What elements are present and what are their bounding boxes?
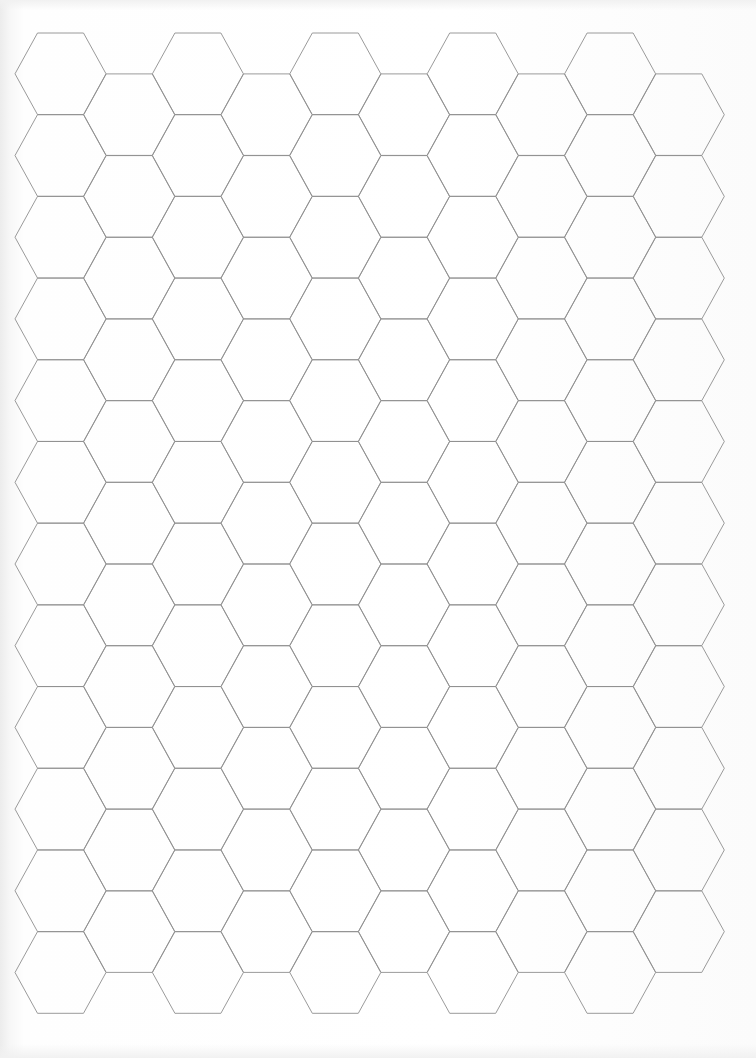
hex-cell — [152, 523, 243, 605]
hex-cell — [15, 115, 106, 197]
hex-cell — [84, 74, 175, 155]
hex-cell — [427, 768, 518, 850]
hex-cell — [290, 523, 381, 605]
hex-cell — [565, 523, 656, 605]
hex-cell — [427, 523, 518, 605]
hex-cell — [15, 768, 106, 850]
hex-cell — [565, 33, 656, 115]
hex-cell — [221, 891, 312, 973]
hex-cell — [84, 891, 175, 973]
hex-cell — [359, 482, 450, 564]
hexagon-grid — [0, 0, 756, 1058]
hex-cell — [84, 646, 175, 728]
hex-cell — [427, 196, 518, 278]
hex-cell — [290, 687, 381, 769]
hex-cell — [84, 564, 175, 646]
hex-cell — [633, 646, 724, 728]
hex-cell — [565, 605, 656, 687]
hex-cell — [290, 605, 381, 687]
hex-cell — [290, 850, 381, 932]
hex-cell — [290, 932, 381, 1014]
hex-cell — [496, 482, 587, 564]
hex-cell — [84, 237, 175, 319]
hex-cell — [565, 278, 656, 360]
hex-cell — [565, 932, 656, 1014]
hex-cell — [427, 932, 518, 1014]
hex-cell — [152, 442, 243, 524]
hex-cell — [84, 319, 175, 401]
hex-cell — [221, 646, 312, 728]
hex-cell — [427, 605, 518, 687]
hex-cell — [15, 278, 106, 360]
hex-cell — [290, 115, 381, 197]
hex-cell — [152, 360, 243, 442]
hex-cell — [84, 401, 175, 483]
hex-cell — [15, 523, 106, 605]
hex-cell — [290, 360, 381, 442]
hex-cell — [290, 768, 381, 850]
hex-cell — [221, 809, 312, 891]
hex-cell — [427, 687, 518, 769]
hex-cell — [496, 401, 587, 483]
hex-cell — [221, 728, 312, 810]
hex-cell — [633, 482, 724, 564]
hex-cell — [496, 646, 587, 728]
hex-cell — [496, 728, 587, 810]
hex-cell — [633, 728, 724, 810]
hex-cell — [15, 33, 106, 115]
hex-cell — [496, 74, 587, 155]
hex-cell — [221, 401, 312, 483]
hex-cell — [427, 360, 518, 442]
hex-cell — [427, 442, 518, 524]
hex-cell — [359, 237, 450, 319]
hex-cell — [221, 74, 312, 155]
hex-cell — [496, 809, 587, 891]
hex-cell — [565, 768, 656, 850]
hex-cell — [496, 156, 587, 238]
hex-cell — [152, 605, 243, 687]
hex-cell — [84, 728, 175, 810]
hex-cell — [15, 196, 106, 278]
hex-cell — [633, 401, 724, 483]
hex-cell — [290, 442, 381, 524]
hex-cell — [496, 564, 587, 646]
hex-cell — [221, 319, 312, 401]
hex-cell — [359, 319, 450, 401]
hex-cell — [496, 237, 587, 319]
hex-cell — [152, 115, 243, 197]
hex-cell — [633, 319, 724, 401]
hex-cell — [84, 482, 175, 564]
hex-cell — [496, 319, 587, 401]
hex-cell — [84, 156, 175, 238]
hex-cell — [359, 564, 450, 646]
hex-cell — [152, 768, 243, 850]
hex-cell — [15, 687, 106, 769]
hex-cell — [152, 196, 243, 278]
hex-cell — [290, 196, 381, 278]
hex-cell — [359, 156, 450, 238]
hex-cell — [633, 564, 724, 646]
hex-cell — [633, 74, 724, 155]
hex-cell — [427, 850, 518, 932]
hex-cell — [565, 687, 656, 769]
hex-cell — [221, 156, 312, 238]
hex-cell — [84, 809, 175, 891]
hex-cell — [427, 278, 518, 360]
hex-cell — [633, 891, 724, 973]
hex-cell — [15, 850, 106, 932]
hex-cell — [359, 74, 450, 155]
hex-cell — [565, 196, 656, 278]
hex-cell — [359, 809, 450, 891]
hex-cell — [359, 891, 450, 973]
hex-cell — [496, 891, 587, 973]
hex-cell — [221, 482, 312, 564]
hex-cell — [565, 360, 656, 442]
hex-cell — [565, 442, 656, 524]
hex-cell — [221, 237, 312, 319]
hex-cell — [15, 605, 106, 687]
hex-cell — [152, 932, 243, 1014]
hex-cell — [290, 278, 381, 360]
hex-cell — [15, 442, 106, 524]
hex-cell — [290, 33, 381, 115]
hex-cell — [565, 850, 656, 932]
